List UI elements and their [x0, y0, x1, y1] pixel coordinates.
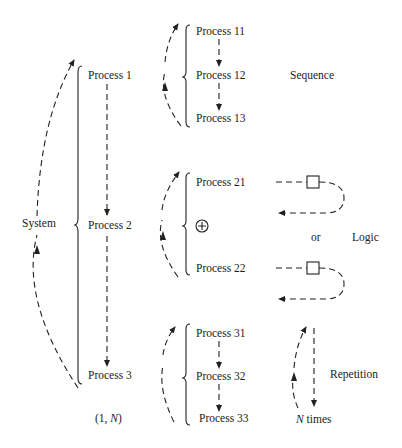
- system-loop-arc-lower: [33, 235, 78, 388]
- process-1: Process 1: [88, 69, 132, 81]
- repetition-group: Process 31 Process 32 Process 33 Repetit…: [162, 324, 378, 425]
- sequence-label: Sequence: [290, 69, 334, 82]
- repetition-symbol-arrowhead: [291, 372, 297, 381]
- process-11: Process 11: [196, 25, 245, 37]
- system-group: System Process 1 Process 2 Process 3 (1,…: [22, 60, 132, 425]
- sequence-loop-arc-upper: [165, 24, 178, 62]
- logic-group: Process 21 Process 22 or Logic: [160, 172, 379, 299]
- system-cardinality: (1, N): [95, 412, 122, 425]
- plus-icon: [198, 222, 206, 230]
- sequence-brace: [183, 25, 190, 127]
- logic-path-1-return: [279, 182, 344, 213]
- repetition-label: Repetition: [330, 368, 378, 381]
- process-22: Process 22: [196, 262, 246, 274]
- system-brace: [75, 66, 82, 384]
- logic-loop-arc-lower: [160, 220, 178, 277]
- sequence-loop-arrowhead: [162, 82, 168, 91]
- process-12: Process 12: [196, 69, 246, 81]
- repetition-times-label: N times: [295, 413, 332, 425]
- process-3: Process 3: [88, 369, 132, 381]
- sequence-group: Process 11 Process 12 Process 13 Sequenc…: [162, 24, 334, 127]
- logic-path-2-return: [279, 268, 344, 299]
- system-loop-arc-upper: [37, 60, 74, 216]
- logic-or-label: or: [311, 231, 321, 243]
- repetition-loop-arc-upper: [163, 327, 175, 355]
- logic-loop-arc-upper: [162, 172, 179, 210]
- logic-decision-box-1: [307, 176, 319, 188]
- process-2: Process 2: [88, 219, 132, 231]
- structure-diagram: System Process 1 Process 2 Process 3 (1,…: [0, 0, 402, 448]
- logic-label: Logic: [352, 231, 379, 244]
- repetition-symbol-arc-upper: [294, 327, 306, 368]
- repetition-loop-arc-lower: [162, 365, 174, 422]
- process-13: Process 13: [196, 112, 246, 124]
- sequence-loop-arc-lower: [163, 72, 181, 126]
- process-21: Process 21: [196, 176, 246, 188]
- repetition-brace: [183, 324, 190, 425]
- process-33: Process 33: [199, 412, 249, 424]
- process-32: Process 32: [196, 370, 246, 382]
- logic-decision-box-2: [307, 262, 319, 274]
- system-label: System: [22, 217, 56, 230]
- process-31: Process 31: [196, 327, 246, 339]
- logic-brace: [183, 173, 190, 275]
